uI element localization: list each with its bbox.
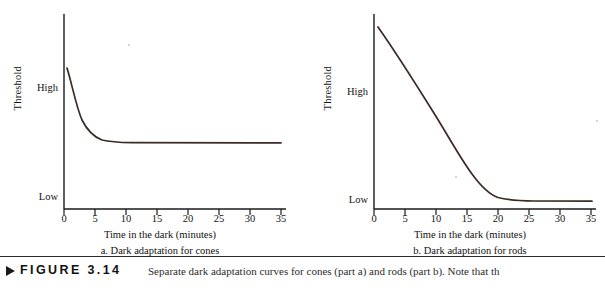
x-tick-label-cones-2: 10 [115,213,137,224]
chart-panel-rods: Threshold High Low 0 [320,6,600,221]
chart-panel-cones: Threshold High Low [10,6,290,221]
x-tick-label-rods-7: 35 [580,213,602,224]
x-axis-title-rods: Time in the dark (minutes) [344,229,596,240]
figure-caption-band: FIGURE 3.14 Separate dark adaptation cur… [0,256,605,291]
scan-speck [128,44,130,46]
cone-threshold-curve [67,68,281,143]
figure-caption-text: Separate dark adaptation curves for cone… [148,265,601,277]
triangle-right-icon [6,266,15,276]
scan-speck [596,120,598,122]
figure-page: Threshold High Low [0,0,605,291]
x-tick-label-cones-5: 25 [208,213,230,224]
x-tick-label-cones-1: 5 [84,213,106,224]
rods-curve-svg [320,6,600,221]
panel-caption-cones: a. Dark adaptation for cones [30,245,290,256]
x-axis-title-cones: Time in the dark (minutes) [34,229,286,240]
plot-area-rods: Threshold High Low 0 [320,6,600,221]
figure-number-label: FIGURE 3.14 [20,263,121,277]
x-tick-label-rods-1: 5 [394,213,416,224]
x-tick-label-rods-2: 10 [425,213,447,224]
x-tick-label-cones-3: 15 [146,213,168,224]
x-tick-label-rods-0: 0 [363,213,385,224]
panel-caption-rods: b. Dark adaptation for rods [340,245,600,256]
x-tick-label-rods-6: 30 [549,213,571,224]
scan-speck [455,176,457,178]
x-tick-label-cones-6: 30 [239,213,261,224]
rod-threshold-curve [378,27,592,201]
x-tick-label-rods-4: 20 [487,213,509,224]
plot-area-cones: Threshold High Low [10,6,290,221]
x-tick-label-rods-3: 15 [456,213,478,224]
x-tick-label-cones-4: 20 [177,213,199,224]
x-tick-label-rods-5: 25 [518,213,540,224]
x-tick-label-cones-7: 35 [270,213,292,224]
cones-curve-svg [10,6,290,221]
x-tick-label-cones-0: 0 [53,213,75,224]
